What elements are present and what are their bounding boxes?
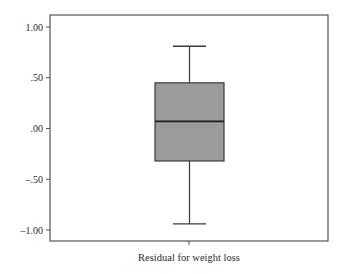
y-axis-tick-label: –1.00 [20,225,44,236]
box-group [155,46,224,224]
chart-canvas: 1.00.50.00–.50–1.00 Residual for weight … [0,0,345,274]
y-axis-tick-label: –.50 [25,174,44,185]
y-axis-tick-label: 1.00 [26,22,44,33]
x-axis-label: Residual for weight loss [138,252,240,263]
y-axis: 1.00.50.00–.50–1.00 [20,22,51,236]
y-axis-tick-label: .50 [31,72,44,83]
y-axis-tick-label: .00 [31,123,44,134]
box-plot-chart: 1.00.50.00–.50–1.00 Residual for weight … [0,0,345,274]
